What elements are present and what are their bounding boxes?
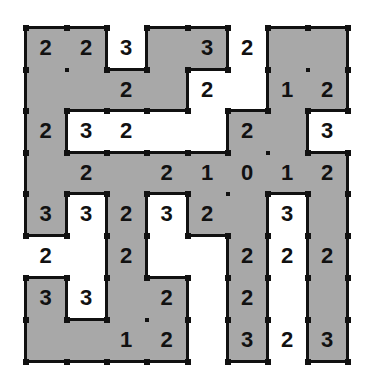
- cell-r7-c7[interactable]: 3: [307, 319, 347, 361]
- border-line: [145, 192, 189, 195]
- cell-r0-c0[interactable]: 2: [25, 27, 66, 69]
- cell-r7-c3[interactable]: 2: [146, 319, 187, 361]
- cell-r3-c5[interactable]: 0: [227, 152, 267, 193]
- border-line: [346, 68, 349, 112]
- border-line: [346, 318, 349, 363]
- vertex-dot: [185, 191, 191, 197]
- cell-r0-c5[interactable]: 2: [227, 27, 267, 69]
- vertex-dot: [64, 233, 70, 239]
- cell-r0-c6[interactable]: [267, 27, 307, 69]
- cell-r1-c3[interactable]: [146, 69, 187, 110]
- cell-r0-c3[interactable]: [146, 27, 187, 69]
- vertex-dot: [64, 317, 70, 323]
- cell-r5-c3[interactable]: [146, 235, 187, 277]
- cell-r3-c0[interactable]: [25, 152, 66, 193]
- vertex-dot: [104, 359, 110, 365]
- cell-r4-c6[interactable]: 3: [267, 193, 307, 235]
- cell-r3-c3[interactable]: 2: [146, 152, 187, 193]
- vertex-dot: [345, 25, 351, 31]
- cell-r6-c7[interactable]: [307, 277, 347, 319]
- border-line: [266, 26, 269, 71]
- border-line: [65, 276, 68, 321]
- border-line: [266, 234, 269, 279]
- vertex-dot: [23, 150, 29, 156]
- cell-r5-c7[interactable]: 2: [307, 235, 347, 277]
- cell-r1-c2[interactable]: 2: [106, 69, 146, 110]
- cell-r1-c6[interactable]: 1: [267, 69, 307, 110]
- border-line: [145, 192, 148, 237]
- cell-r3-c7[interactable]: 2: [307, 152, 347, 193]
- cell-r1-c0[interactable]: [25, 69, 66, 110]
- border-line: [65, 109, 68, 154]
- cell-r7-c1[interactable]: [66, 319, 106, 361]
- border-line: [346, 151, 349, 195]
- border-line: [24, 109, 27, 154]
- border-line: [65, 360, 108, 363]
- cell-r6-c5[interactable]: 2: [227, 277, 267, 319]
- cell-r2-c2[interactable]: 2: [106, 110, 146, 152]
- cell-r2-c4[interactable]: [187, 110, 227, 152]
- cell-r4-c7[interactable]: [307, 193, 347, 235]
- cell-r6-c3[interactable]: 2: [146, 277, 187, 319]
- vertex-dot: [144, 275, 150, 281]
- border-line: [226, 234, 229, 279]
- cell-r2-c3[interactable]: [146, 110, 187, 152]
- cell-r5-c6[interactable]: 2: [267, 235, 307, 277]
- cell-r5-c2[interactable]: 2: [106, 235, 146, 277]
- cell-r1-c1[interactable]: [66, 69, 106, 110]
- border-line: [24, 318, 27, 363]
- cell-r2-c0[interactable]: 2: [25, 110, 66, 152]
- cell-r6-c4[interactable]: [187, 277, 227, 319]
- vertex-dot: [104, 67, 110, 73]
- cell-r3-c1[interactable]: 2: [66, 152, 106, 193]
- cell-r4-c3[interactable]: 3: [146, 193, 187, 235]
- cell-r7-c0[interactable]: [25, 319, 66, 361]
- cell-r6-c0[interactable]: 3: [25, 277, 66, 319]
- cell-r0-c4[interactable]: 3: [187, 27, 227, 69]
- cell-r7-c6[interactable]: 2: [267, 319, 307, 361]
- cell-r4-c2[interactable]: 2: [106, 193, 146, 235]
- cell-r1-c4[interactable]: 2: [187, 69, 227, 110]
- cell-r1-c7[interactable]: 2: [307, 69, 347, 110]
- cell-r7-c5[interactable]: 3: [227, 319, 267, 361]
- vertex-dot: [145, 318, 149, 322]
- cell-r5-c4[interactable]: [187, 235, 227, 277]
- cell-r6-c2[interactable]: [106, 277, 146, 319]
- cell-r5-c1[interactable]: [66, 235, 106, 277]
- cell-r4-c0[interactable]: 3: [25, 193, 66, 235]
- cell-r7-c4[interactable]: [187, 319, 227, 361]
- vertex-dot: [225, 25, 231, 31]
- cell-r3-c4[interactable]: 1: [187, 152, 227, 193]
- cell-r2-c6[interactable]: [267, 110, 307, 152]
- vertex-dot: [305, 233, 311, 239]
- vertex-dot: [185, 25, 191, 31]
- border-line: [306, 318, 309, 363]
- cell-r1-c5[interactable]: [227, 69, 267, 110]
- cell-r4-c4[interactable]: 2: [187, 193, 227, 235]
- cell-r6-c6[interactable]: [267, 277, 307, 319]
- cell-r2-c1[interactable]: 3: [66, 110, 106, 152]
- cell-r3-c2[interactable]: [106, 152, 146, 193]
- cell-r2-c5[interactable]: 2: [227, 110, 267, 152]
- cell-r2-c7[interactable]: 3: [307, 110, 347, 152]
- cell-r0-c7[interactable]: [307, 27, 347, 69]
- cell-r4-c1[interactable]: 3: [66, 193, 106, 235]
- cell-r3-c6[interactable]: 1: [267, 152, 307, 193]
- vertex-dot: [144, 25, 150, 31]
- border-line: [24, 151, 27, 195]
- border-line: [266, 192, 269, 237]
- cell-r7-c2[interactable]: 1: [106, 319, 146, 361]
- border-line: [186, 26, 229, 29]
- vertex-dot: [225, 317, 231, 323]
- cell-r6-c1[interactable]: 3: [66, 277, 106, 319]
- cell-r4-c5[interactable]: [227, 193, 267, 235]
- cell-r5-c5[interactable]: 2: [227, 235, 267, 277]
- cell-r0-c1[interactable]: 2: [66, 27, 106, 69]
- cell-r0-c2[interactable]: 3: [106, 27, 146, 69]
- cell-r5-c0[interactable]: 2: [25, 235, 66, 277]
- border-line: [346, 26, 349, 71]
- border-line: [226, 318, 229, 363]
- vertex-dot: [185, 359, 191, 365]
- vertex-dot: [144, 67, 150, 73]
- vertex-dot: [64, 108, 70, 114]
